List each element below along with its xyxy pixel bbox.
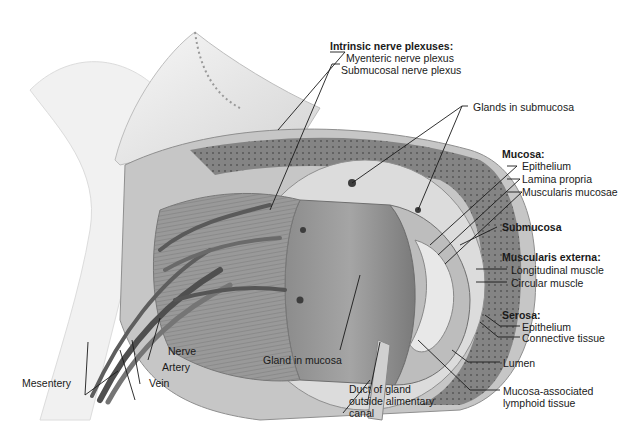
label-muscularis-externa-header: Muscularis externa:	[502, 251, 601, 263]
label-submucosal-nerve-plexus: Submucosal nerve plexus	[341, 64, 461, 76]
label-submucosa: Submucosa	[502, 221, 562, 233]
label-malt-line2: lymphoid tissue	[503, 397, 575, 409]
label-lamina-propria: Lamina propria	[522, 173, 592, 185]
label-mucosa-header: Mucosa:	[502, 148, 545, 160]
label-mesentery: Mesentery	[22, 377, 71, 389]
label-serosa-header: Serosa:	[502, 309, 541, 321]
label-myenteric-nerve-plexus: Myenteric nerve plexus	[346, 52, 454, 64]
label-nerve: Nerve	[168, 345, 196, 357]
label-mucosa-epithelium: Epithelium	[522, 160, 571, 172]
label-glands-in-submucosa: Glands in submucosa	[473, 101, 574, 113]
label-artery: Artery	[162, 361, 190, 373]
label-vein: Vein	[149, 377, 169, 389]
label-duct-line3: canal	[349, 407, 374, 419]
label-longitudinal-muscle: Longitudinal muscle	[511, 264, 604, 276]
label-malt-line1: Mucosa-associated	[503, 385, 593, 397]
label-duct-line2: outside alimentary	[349, 395, 434, 407]
label-connective-tissue: Connective tissue	[522, 332, 605, 344]
label-duct-line1: Duct of gland	[349, 383, 411, 395]
alimentary-canal-illustration	[0, 0, 632, 431]
label-intrinsic-nerve-plexuses: Intrinsic nerve plexuses:	[330, 40, 453, 52]
label-muscularis-mucosae: Muscularis mucosae	[522, 186, 618, 198]
label-gland-in-mucosa: Gland in mucosa	[263, 354, 342, 366]
label-circular-muscle: Circular muscle	[511, 277, 583, 289]
label-lumen: Lumen	[503, 357, 535, 369]
